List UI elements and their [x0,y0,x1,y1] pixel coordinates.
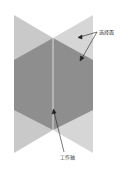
diagram-canvas: 选择面 工作轴 [0,0,128,171]
selection-face-label: 选择面 [99,29,114,36]
work-axis-label: 工作轴 [60,154,75,161]
